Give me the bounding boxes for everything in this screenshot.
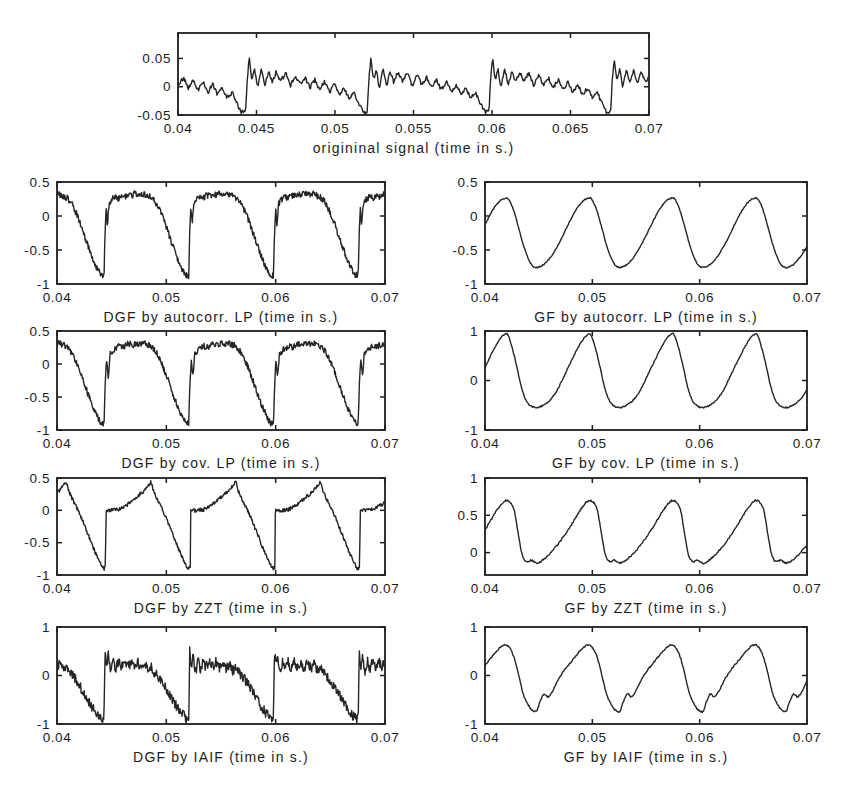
x-tick-label: 0.06	[685, 436, 714, 451]
x-tick-label: 0.07	[371, 581, 400, 596]
plot-canvas-gf-cov-lp: 0.040.050.060.0710-1GF by cov. LP (time …	[429, 321, 821, 478]
y-tick-label: 0	[42, 668, 50, 683]
waveform-original-signal	[178, 58, 649, 114]
y-tick-label: 1	[470, 471, 478, 486]
y-tick-label: -1	[465, 277, 478, 292]
x-axis-label-dgf-iaif: DGF by IAIF (time in s.)	[133, 749, 309, 765]
plot-canvas-original-signal: 0.040.0450.050.0550.060.0650.070.050-0.0…	[122, 23, 663, 163]
y-tick-label: -1	[37, 717, 50, 732]
plot-canvas-dgf-iaif: 0.040.050.060.0710-1DGF by IAIF (time in…	[1, 617, 399, 772]
y-tick-label: 0.5	[29, 324, 50, 339]
y-tick-label: 0.5	[29, 175, 50, 190]
y-tick-label: 0	[42, 357, 50, 372]
y-tick-label: 0	[470, 373, 478, 388]
x-tick-label: 0.05	[578, 730, 607, 745]
x-axis-label-original-signal: origininal signal (time in s.)	[313, 140, 515, 156]
plot-gf-iaif: 0.040.050.060.0710-1GF by IAIF (time in …	[429, 617, 821, 772]
x-tick-label: 0.07	[793, 290, 822, 305]
x-tick-label: 0.06	[261, 436, 290, 451]
plot-dgf-iaif: 0.040.050.060.0710-1DGF by IAIF (time in…	[1, 617, 399, 772]
y-tick-label: 0	[470, 668, 478, 683]
plot-canvas-dgf-autocorr-lp: 0.040.050.060.070.50-0.5-1DGF by autocor…	[1, 172, 399, 332]
plot-canvas-dgf-zzt: 0.040.050.060.070.50-0.5-1DGF by ZZT (ti…	[1, 468, 399, 623]
y-tick-label: -1	[37, 277, 50, 292]
x-tick-label: 0.06	[261, 290, 290, 305]
axis-box	[485, 182, 807, 284]
x-tick-label: 0.07	[371, 436, 400, 451]
x-tick-label: 0.04	[471, 581, 500, 596]
x-tick-label: 0.045	[238, 121, 275, 136]
waveform-gf-zzt	[485, 500, 807, 564]
x-tick-label: 0.05	[152, 290, 181, 305]
plot-gf-cov-lp: 0.040.050.060.0710-1GF by cov. LP (time …	[429, 321, 821, 478]
x-tick-label: 0.07	[371, 730, 400, 745]
y-tick-label: -1	[465, 717, 478, 732]
y-tick-label: 1	[470, 620, 478, 635]
x-axis-label-dgf-zzt: DGF by ZZT (time in s.)	[134, 600, 308, 616]
plot-canvas-gf-iaif: 0.040.050.060.0710-1GF by IAIF (time in …	[429, 617, 821, 772]
x-tick-label: 0.06	[261, 581, 290, 596]
y-tick-label: 0.5	[457, 175, 478, 190]
x-tick-label: 0.04	[43, 730, 72, 745]
axis-box	[57, 331, 385, 430]
x-axis-label-gf-iaif: GF by IAIF (time in s.)	[564, 749, 729, 765]
plot-dgf-cov-lp: 0.040.050.060.070.50-0.5-1DGF by cov. LP…	[1, 321, 399, 478]
x-tick-label: 0.06	[261, 730, 290, 745]
x-tick-label: 0.04	[43, 290, 72, 305]
x-tick-label: 0.04	[471, 730, 500, 745]
plot-dgf-zzt: 0.040.050.060.070.50-0.5-1DGF by ZZT (ti…	[1, 468, 399, 623]
x-tick-label: 0.04	[164, 121, 193, 136]
x-axis-label-gf-zzt: GF by ZZT (time in s.)	[564, 600, 727, 616]
x-tick-label: 0.05	[152, 581, 181, 596]
y-tick-label: 1	[470, 324, 478, 339]
x-tick-label: 0.07	[793, 730, 822, 745]
x-tick-label: 0.04	[43, 436, 72, 451]
y-tick-label: 0	[470, 209, 478, 224]
x-tick-label: 0.06	[685, 730, 714, 745]
axis-box	[178, 33, 649, 115]
y-tick-label: 0.5	[29, 471, 50, 486]
y-tick-label: -1	[37, 423, 50, 438]
x-tick-label: 0.055	[395, 121, 432, 136]
x-tick-label: 0.06	[478, 121, 507, 136]
waveform-gf-iaif	[485, 644, 807, 712]
plot-gf-zzt: 0.040.050.060.0710.50GF by ZZT (time in …	[429, 468, 821, 623]
x-tick-label: 0.07	[635, 121, 664, 136]
axis-box	[485, 627, 807, 724]
y-tick-label: -0.5	[24, 390, 50, 405]
plot-canvas-gf-zzt: 0.040.050.060.0710.50GF by ZZT (time in …	[429, 468, 821, 623]
axis-box	[57, 627, 385, 724]
y-tick-label: 0.5	[457, 508, 478, 523]
waveform-dgf-iaif	[57, 647, 385, 723]
x-tick-label: 0.065	[552, 121, 589, 136]
x-tick-label: 0.04	[471, 436, 500, 451]
waveform-dgf-cov-lp	[57, 340, 385, 425]
waveform-dgf-zzt	[57, 481, 385, 571]
axis-box	[57, 182, 385, 284]
x-tick-label: 0.07	[793, 436, 822, 451]
x-tick-label: 0.05	[578, 436, 607, 451]
waveform-gf-autocorr-lp	[485, 197, 807, 268]
plot-dgf-autocorr-lp: 0.040.050.060.070.50-0.5-1DGF by autocor…	[1, 172, 399, 332]
y-tick-label: -0.05	[137, 108, 171, 123]
x-tick-label: 0.05	[152, 436, 181, 451]
y-tick-label: 0.05	[142, 51, 171, 66]
y-tick-label: -1	[37, 568, 50, 583]
y-tick-label: 0	[163, 79, 171, 94]
y-tick-label: -1	[465, 423, 478, 438]
y-tick-label: 0	[42, 503, 50, 518]
y-tick-label: -0.5	[24, 535, 50, 550]
x-tick-label: 0.04	[471, 290, 500, 305]
x-tick-label: 0.05	[321, 121, 350, 136]
plot-canvas-dgf-cov-lp: 0.040.050.060.070.50-0.5-1DGF by cov. LP…	[1, 321, 399, 478]
y-tick-label: 0	[42, 209, 50, 224]
glottal-flow-comparison-figure: 0.040.0450.050.0550.060.0650.070.050-0.0…	[0, 0, 845, 796]
x-tick-label: 0.05	[578, 581, 607, 596]
plot-original-signal: 0.040.0450.050.0550.060.0650.070.050-0.0…	[122, 23, 663, 163]
x-tick-label: 0.05	[578, 290, 607, 305]
waveform-gf-cov-lp	[485, 333, 807, 408]
x-tick-label: 0.05	[152, 730, 181, 745]
y-tick-label: -0.5	[452, 243, 478, 258]
x-tick-label: 0.07	[371, 290, 400, 305]
axis-box	[485, 331, 807, 430]
